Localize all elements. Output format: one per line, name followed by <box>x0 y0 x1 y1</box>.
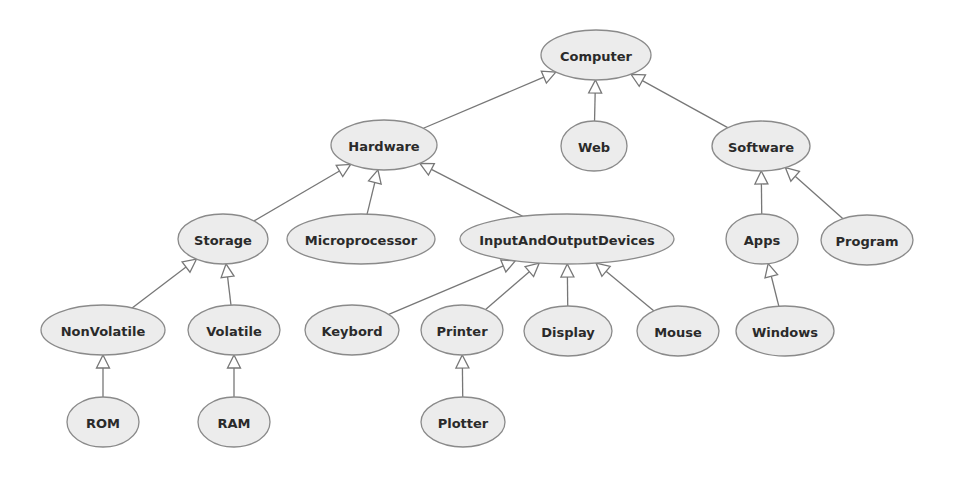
node-label: ROM <box>86 416 120 431</box>
hollow-triangle-arrowhead-icon <box>785 168 799 181</box>
edge-software-to-computer <box>631 74 728 127</box>
node-label: Web <box>578 140 610 155</box>
node-label: Software <box>728 140 794 155</box>
edge-non-volatile-to-storage <box>132 259 196 308</box>
edge-line <box>606 271 654 311</box>
hollow-triangle-arrowhead-icon <box>596 263 610 276</box>
edge-microprocessor-to-hardware <box>367 170 381 214</box>
node-label: Computer <box>560 49 633 64</box>
hollow-triangle-arrowhead-icon <box>765 264 778 278</box>
node-label: Windows <box>752 325 818 340</box>
edge-display-to-input-and-output-devices <box>561 264 574 306</box>
edge-line <box>431 169 522 216</box>
node-rom[interactable]: ROM <box>67 397 139 447</box>
node-web[interactable]: Web <box>561 121 627 171</box>
edge-plotter-to-printer <box>456 355 469 397</box>
node-label: Keybord <box>321 324 382 339</box>
node-program[interactable]: Program <box>821 215 913 265</box>
edge-line <box>642 81 727 128</box>
hollow-triangle-arrowhead-icon <box>182 259 196 272</box>
hollow-triangle-arrowhead-icon <box>336 164 351 176</box>
edge-line <box>228 277 231 305</box>
node-printer[interactable]: Printer <box>421 305 503 355</box>
class-hierarchy-diagram: ComputerHardwareWebSoftwareStorageMicrop… <box>0 0 953 481</box>
node-layer: ComputerHardwareWebSoftwareStorageMicrop… <box>41 30 913 447</box>
hollow-triangle-arrowhead-icon <box>525 263 539 276</box>
node-label: Hardware <box>348 139 420 154</box>
hollow-triangle-arrowhead-icon <box>589 80 602 93</box>
hollow-triangle-arrowhead-icon <box>228 355 241 368</box>
node-label: Storage <box>194 233 252 248</box>
edge-line <box>254 171 339 221</box>
hollow-triangle-arrowhead-icon <box>221 264 234 278</box>
edge-mouse-to-input-and-output-devices <box>596 263 654 311</box>
node-keybord[interactable]: Keybord <box>305 305 399 355</box>
edge-volatile-to-storage <box>221 264 234 305</box>
edge-apps-to-software <box>755 171 768 214</box>
edge-web-to-computer <box>589 80 602 121</box>
edge-windows-to-apps <box>765 264 779 307</box>
node-label: Display <box>541 325 595 340</box>
node-label: Mouse <box>654 325 702 340</box>
hollow-triangle-arrowhead-icon <box>456 355 469 368</box>
node-windows[interactable]: Windows <box>736 306 834 356</box>
node-apps[interactable]: Apps <box>726 214 798 264</box>
node-mouse[interactable]: Mouse <box>637 306 719 356</box>
edge-storage-to-hardware <box>254 164 351 220</box>
node-label: Printer <box>436 324 488 339</box>
edge-line <box>795 176 843 218</box>
node-display[interactable]: Display <box>524 306 612 356</box>
node-plotter[interactable]: Plotter <box>421 397 505 447</box>
node-software[interactable]: Software <box>712 121 810 171</box>
hollow-triangle-arrowhead-icon <box>541 71 556 83</box>
edge-line <box>423 77 543 128</box>
hollow-triangle-arrowhead-icon <box>369 170 382 184</box>
edge-rom-to-non-volatile <box>97 355 110 397</box>
node-label: Program <box>836 234 899 249</box>
edge-input-and-output-devices-to-hardware <box>420 163 523 216</box>
hollow-triangle-arrowhead-icon <box>631 74 646 86</box>
edge-hardware-to-computer <box>423 71 555 128</box>
hollow-triangle-arrowhead-icon <box>755 171 768 184</box>
edge-line <box>771 276 778 306</box>
node-label: InputAndOutputDevices <box>479 233 655 248</box>
node-computer[interactable]: Computer <box>541 30 651 80</box>
node-ram[interactable]: RAM <box>198 397 270 447</box>
node-input-and-output-devices[interactable]: InputAndOutputDevices <box>460 214 674 264</box>
edge-program-to-software <box>785 168 843 219</box>
edge-line <box>132 267 186 308</box>
hollow-triangle-arrowhead-icon <box>501 260 516 272</box>
edge-line <box>486 272 530 310</box>
hollow-triangle-arrowhead-icon <box>561 264 574 277</box>
node-microprocessor[interactable]: Microprocessor <box>287 214 435 264</box>
edge-ram-to-volatile <box>228 355 241 397</box>
node-hardware[interactable]: Hardware <box>331 120 437 170</box>
node-label: RAM <box>217 416 250 431</box>
edge-line <box>595 93 596 121</box>
node-label: Microprocessor <box>305 233 418 248</box>
edge-line <box>367 182 375 214</box>
node-volatile[interactable]: Volatile <box>188 305 280 355</box>
node-label: NonVolatile <box>61 324 146 339</box>
node-storage[interactable]: Storage <box>178 214 268 264</box>
hollow-triangle-arrowhead-icon <box>97 355 110 368</box>
node-label: Plotter <box>438 416 489 431</box>
node-non-volatile[interactable]: NonVolatile <box>41 305 165 355</box>
node-label: Apps <box>744 233 781 248</box>
node-label: Volatile <box>206 324 262 339</box>
